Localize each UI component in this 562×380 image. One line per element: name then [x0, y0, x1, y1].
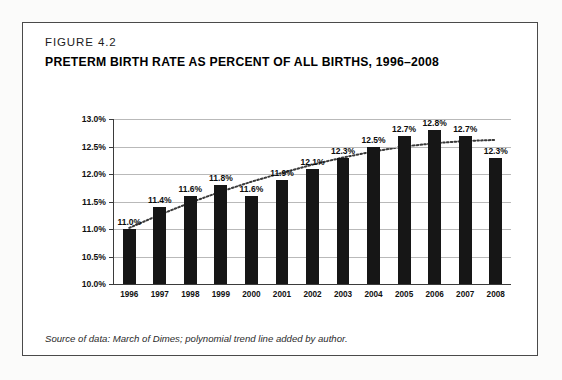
- bar: [245, 196, 258, 284]
- x-axis-label: 1999: [212, 290, 230, 299]
- y-gridline: [114, 147, 511, 148]
- y-axis-label: 11.0%: [82, 224, 106, 234]
- bar: [337, 158, 350, 285]
- bar-value-label: 11.9%: [270, 168, 294, 178]
- source-caption: Source of data: March of Dimes; polynomi…: [45, 333, 348, 344]
- x-axis-label: 2006: [426, 290, 444, 299]
- x-axis-label: 1998: [181, 290, 199, 299]
- y-axis-label: 12.5%: [82, 142, 106, 152]
- y-axis-tick: [109, 229, 114, 230]
- figure-title: PRETERM BIRTH RATE AS PERCENT OF ALL BIR…: [45, 55, 439, 69]
- bar: [367, 147, 380, 285]
- x-axis-label: 2008: [487, 290, 505, 299]
- y-axis-tick: [109, 119, 114, 120]
- y-axis-tick: [109, 257, 114, 258]
- bar-value-label: 11.0%: [117, 217, 141, 227]
- bar: [489, 158, 502, 285]
- y-gridline: [114, 119, 511, 120]
- x-axis-label: 1996: [120, 290, 138, 299]
- bar: [123, 229, 136, 284]
- y-axis-label: 13.0%: [82, 114, 106, 124]
- x-axis-label: 2003: [334, 290, 352, 299]
- bar-value-label: 11.6%: [179, 184, 203, 194]
- plot-area: 10.0%10.5%11.0%11.5%12.0%12.5%13.0%11.0%…: [113, 119, 511, 285]
- bar-value-label: 12.5%: [362, 135, 386, 145]
- x-axis-label: 2002: [303, 290, 321, 299]
- x-axis-label: 2001: [273, 290, 291, 299]
- bar: [306, 169, 319, 285]
- bar-value-label: 12.1%: [300, 157, 324, 167]
- y-axis-tick: [109, 284, 114, 285]
- x-axis-label: 2000: [242, 290, 260, 299]
- bar-value-label: 11.8%: [209, 173, 233, 183]
- x-axis-label: 2005: [395, 290, 413, 299]
- y-axis-tick: [109, 202, 114, 203]
- bar-value-label: 11.6%: [240, 184, 264, 194]
- x-axis-label: 2004: [364, 290, 382, 299]
- bar-value-label: 12.7%: [453, 124, 477, 134]
- bar: [459, 136, 472, 285]
- y-axis-label: 10.0%: [82, 279, 106, 289]
- bar: [428, 130, 441, 284]
- bar-value-label: 11.4%: [148, 195, 172, 205]
- bar: [276, 180, 289, 285]
- x-axis-label: 2007: [456, 290, 474, 299]
- bar: [153, 207, 166, 284]
- y-axis-label: 10.5%: [82, 252, 106, 262]
- page-background: FIGURE 4.2 PRETERM BIRTH RATE AS PERCENT…: [0, 0, 562, 380]
- x-axis-label: 1997: [151, 290, 169, 299]
- chart-area: 10.0%10.5%11.0%11.5%12.0%12.5%13.0%11.0%…: [75, 111, 515, 311]
- figure-number-label: FIGURE 4.2: [45, 36, 117, 48]
- bar-value-label: 12.7%: [392, 124, 416, 134]
- bar: [398, 136, 411, 285]
- bar-value-label: 12.3%: [331, 146, 355, 156]
- bar-value-label: 12.3%: [484, 146, 508, 156]
- y-axis-label: 11.5%: [82, 197, 106, 207]
- y-axis-tick: [109, 174, 114, 175]
- bar: [184, 196, 197, 284]
- bar-value-label: 12.8%: [423, 118, 447, 128]
- bar: [214, 185, 227, 284]
- figure-frame: FIGURE 4.2 PRETERM BIRTH RATE AS PERCENT…: [22, 22, 538, 356]
- y-axis-label: 12.0%: [82, 169, 106, 179]
- y-axis-tick: [109, 147, 114, 148]
